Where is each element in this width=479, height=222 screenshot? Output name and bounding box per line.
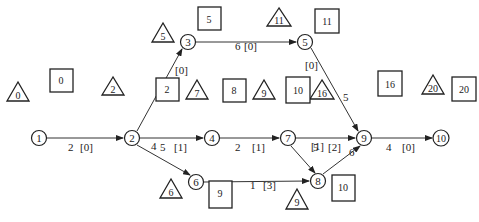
svg-text:9: 9: [295, 197, 300, 208]
svg-text:10: 10: [436, 133, 446, 144]
node-5: 5: [298, 35, 313, 50]
node-8: 8: [311, 174, 326, 189]
svg-text:7: 7: [285, 132, 291, 144]
node-7: 7: [281, 131, 296, 146]
svg-text:8: 8: [232, 85, 237, 96]
svg-text:6: 6: [169, 187, 174, 198]
svg-text:9: 9: [218, 188, 223, 199]
edge-6-8-float: [3]: [263, 179, 276, 191]
edge-labels: 2 [0] 3 [0] 5 [1] 4 4 6 [0] 2 [1] 5 [0] …: [68, 40, 415, 191]
box-node-9: 16: [378, 71, 402, 96]
box-node-3: 5: [198, 7, 221, 30]
edge-1-2-duration: 2: [68, 141, 74, 153]
edge-4-7-duration: 2: [235, 141, 241, 153]
triangle-node-2: 2: [102, 77, 124, 95]
triangle-node-5: 11: [267, 8, 291, 26]
edge-1-2-float: [0]: [80, 141, 93, 153]
node-2: 2: [125, 131, 140, 146]
triangle-node-6: 6: [160, 179, 182, 198]
box-node-6: 9: [209, 181, 232, 208]
triangle-node-10: 20: [422, 75, 444, 94]
box-node-4: 8: [223, 79, 246, 102]
edge-9-10-duration: 4: [386, 141, 392, 153]
edge-2-4-duration: 5: [160, 141, 166, 153]
edge-5-9-duration: 5: [343, 91, 349, 103]
box-node-1: 0: [50, 69, 73, 92]
edge-2-6-labels: 4: [151, 140, 157, 152]
svg-text:5: 5: [302, 36, 308, 48]
svg-text:10: 10: [293, 85, 303, 96]
nodes: 1 2 3 4 5 6 7 8 9 10: [32, 35, 450, 190]
edges: [47, 42, 432, 182]
svg-text:20: 20: [428, 83, 438, 94]
svg-text:2: 2: [165, 84, 170, 95]
svg-text:16: 16: [317, 88, 327, 99]
node-4: 4: [205, 131, 220, 146]
edge-7-9-float: [2]: [328, 141, 341, 153]
edge-3-5-duration: 6: [235, 40, 241, 52]
node-3: 3: [181, 35, 196, 50]
svg-text:2: 2: [111, 84, 116, 95]
svg-text:3: 3: [185, 36, 191, 48]
node-6: 6: [189, 175, 204, 190]
edge-2-3-float: [0]: [175, 64, 188, 76]
box-node-7: 10: [286, 77, 310, 103]
svg-text:16: 16: [385, 79, 395, 90]
svg-text:10: 10: [338, 182, 348, 193]
edge-8-9-duration: 6: [349, 146, 355, 158]
triangle-node-7: 9: [253, 80, 275, 99]
edge-3-5-float: [0]: [244, 40, 257, 52]
triangles: 0 2 5 7 11 6 9 9 16 20: [7, 8, 444, 209]
edge-5-9-float: [0]: [305, 59, 318, 71]
edge-2-6-dur: 4: [151, 140, 157, 152]
box-node-5: 11: [315, 9, 339, 33]
svg-text:0: 0: [59, 75, 64, 86]
edge-4-7-float: [1]: [252, 141, 265, 153]
triangle-node-1: 0: [7, 82, 29, 101]
svg-text:11: 11: [322, 16, 332, 27]
svg-text:8: 8: [315, 175, 321, 187]
triangle-node-3: 5: [152, 23, 174, 42]
svg-text:5: 5: [161, 31, 166, 42]
svg-text:7: 7: [195, 88, 200, 99]
svg-text:5: 5: [207, 14, 212, 25]
box-node-8: 10: [332, 175, 355, 201]
svg-text:11: 11: [274, 15, 284, 26]
svg-text:6: 6: [193, 176, 199, 188]
triangle-node-8: 9: [286, 189, 308, 209]
svg-text:9: 9: [262, 88, 267, 99]
svg-text:1: 1: [36, 132, 42, 144]
boxes: 0 2 5 8 11 9 10 10 16 20: [50, 7, 476, 208]
node-10: 10: [433, 130, 449, 146]
svg-text:0: 0: [16, 90, 21, 101]
node-9: 9: [357, 131, 372, 146]
triangle-node-4: 7: [186, 80, 208, 99]
edge-9-10-float: [0]: [402, 141, 415, 153]
edge-7-8-float: [1]: [311, 140, 324, 152]
box-node-2: 2: [156, 78, 179, 101]
edge-6-8-duration: 1: [250, 179, 256, 191]
node-1: 1: [32, 131, 47, 146]
network-diagram: 2 [0] 3 [0] 5 [1] 4 4 6 [0] 2 [1] 5 [0] …: [0, 0, 479, 222]
svg-text:20: 20: [459, 84, 469, 95]
box-node-10: 20: [452, 77, 476, 101]
svg-text:9: 9: [361, 132, 367, 144]
edge-2-4-float: [1]: [174, 141, 187, 153]
svg-text:4: 4: [209, 132, 215, 144]
svg-text:2: 2: [129, 132, 135, 144]
